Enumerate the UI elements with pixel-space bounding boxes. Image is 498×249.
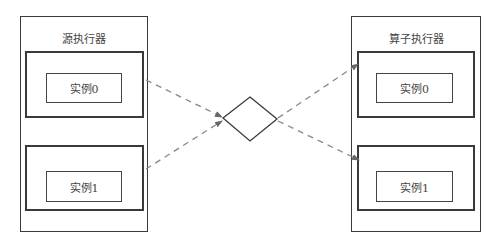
edge-diamond-to-operator0 (278, 64, 358, 118)
edge-diamond-to-operator1 (278, 121, 359, 160)
edge-source0-to-diamond (146, 80, 222, 117)
diamond-connector (223, 97, 277, 141)
edge-source1-to-diamond (146, 121, 222, 169)
connector-layer (0, 0, 498, 249)
